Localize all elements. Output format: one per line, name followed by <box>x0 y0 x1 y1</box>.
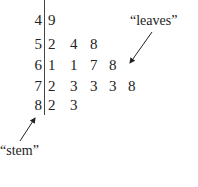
leaves-arrow-icon <box>130 32 152 63</box>
stem-and-leaf-plot: 4 9 5 2 4 8 6 1 1 7 8 7 2 3 3 3 8 8 2 3 … <box>0 0 198 187</box>
annotation-arrows <box>0 0 198 187</box>
stem-arrow-icon <box>20 118 35 141</box>
